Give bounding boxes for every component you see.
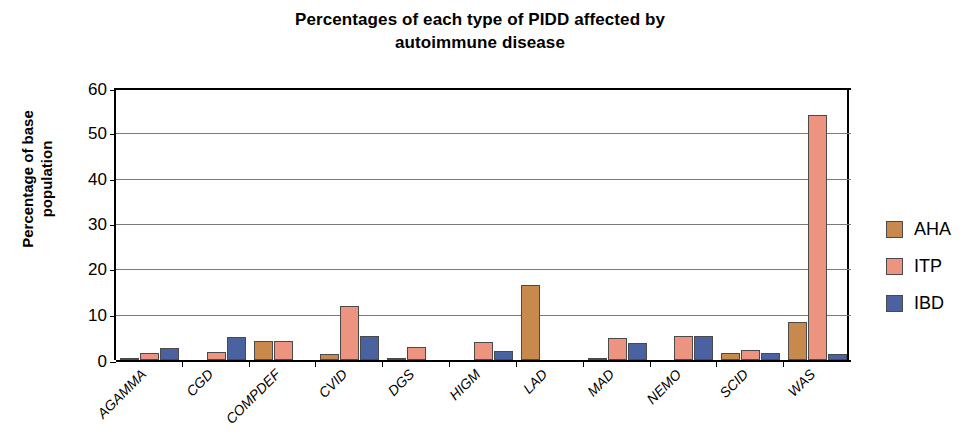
- bar-ibd-scid: [761, 353, 780, 360]
- bar-ibd-agamma: [160, 348, 179, 360]
- bar-itp-nemo: [674, 336, 693, 360]
- bar-aha-was: [788, 322, 807, 360]
- y-tick-label-20: 20: [67, 260, 107, 280]
- plot-area: 0102030405060: [114, 88, 849, 360]
- y-axis-title-line-2: population: [37, 79, 56, 279]
- bar-ibd-higm: [494, 351, 513, 360]
- bar-itp-scid: [741, 350, 760, 360]
- bar-itp-cvid: [340, 306, 359, 360]
- legend-item-aha[interactable]: AHA: [886, 211, 970, 248]
- bar-itp-dgs: [407, 347, 426, 360]
- x-label-cell: HIGM: [448, 362, 515, 441]
- bar-itp-mad: [608, 338, 627, 360]
- x-axis-label-nemo: NEMO: [643, 366, 684, 407]
- chart-title-line-1: Percentages of each type of PIDD affecte…: [295, 10, 665, 29]
- bar-aha-cvid: [320, 354, 339, 360]
- bar-ibd-nemo: [694, 336, 713, 360]
- x-label-cell: WAS: [782, 362, 849, 441]
- bar-itp-higm: [474, 342, 493, 360]
- bar-ibd-was: [828, 354, 847, 360]
- legend-label-ibd: IBD: [914, 293, 944, 314]
- x-label-cell: NEMO: [649, 362, 716, 441]
- y-axis-title-line-1: Percentage of base: [18, 79, 37, 279]
- y-tick-label-40: 40: [67, 170, 107, 190]
- legend-swatch-itp: [886, 258, 903, 275]
- x-axis-label-cvid: CVID: [315, 366, 350, 401]
- bar-aha-lad: [521, 285, 540, 360]
- bar-group-cgd: [183, 88, 250, 360]
- x-axis-label-mad: MAD: [584, 366, 617, 399]
- bar-group-cvid: [316, 88, 383, 360]
- bar-group-agamma: [116, 88, 183, 360]
- bars-layer: [116, 88, 851, 360]
- x-axis-label-agamma: AGAMMA: [94, 366, 149, 421]
- bar-aha-compdef: [254, 341, 273, 360]
- bar-aha-dgs: [387, 358, 406, 361]
- x-axis-label-dgs: DGS: [384, 366, 417, 399]
- y-tick-label-30: 30: [67, 215, 107, 235]
- x-label-cell: SCID: [715, 362, 782, 441]
- legend-swatch-aha: [886, 221, 903, 238]
- x-label-cell: CVID: [314, 362, 381, 441]
- bar-group-compdef: [250, 88, 317, 360]
- bar-itp-was: [808, 115, 827, 360]
- bar-ibd-mad: [628, 343, 647, 360]
- chart-title: Percentages of each type of PIDD affecte…: [150, 8, 810, 54]
- bar-itp-agamma: [140, 353, 159, 360]
- legend: AHAITPIBD: [886, 211, 970, 322]
- bar-group-higm: [450, 88, 517, 360]
- x-label-cell: MAD: [582, 362, 649, 441]
- x-label-cell: LAD: [515, 362, 582, 441]
- y-axis-title: Percentage of base population: [18, 79, 56, 279]
- legend-item-ibd[interactable]: IBD: [886, 285, 970, 322]
- legend-label-itp: ITP: [914, 256, 942, 277]
- y-tick-label-60: 60: [67, 80, 107, 100]
- bar-group-nemo: [651, 88, 718, 360]
- legend-item-itp[interactable]: ITP: [886, 248, 970, 285]
- y-tick-label-10: 10: [67, 306, 107, 326]
- bar-aha-mad: [588, 358, 607, 361]
- x-axis-label-lad: LAD: [520, 366, 551, 397]
- x-axis-label-cgd: CGD: [183, 366, 216, 399]
- x-label-cell: COMPDEF: [248, 362, 315, 441]
- bar-itp-cgd: [207, 352, 226, 360]
- y-tick-label-50: 50: [67, 124, 107, 144]
- y-tick-label-0: 0: [67, 352, 107, 372]
- x-axis-label-scid: SCID: [716, 366, 751, 401]
- x-axis-labels: AGAMMACGDCOMPDEFCVIDDGSHIGMLADMADNEMOSCI…: [114, 362, 849, 441]
- bar-group-dgs: [383, 88, 450, 360]
- bar-ibd-cvid: [360, 336, 379, 360]
- bar-aha-agamma: [120, 358, 139, 361]
- x-axis-label-higm: HIGM: [447, 366, 484, 403]
- bar-group-lad: [517, 88, 584, 360]
- bar-group-scid: [717, 88, 784, 360]
- plot-area-wrapper: 0102030405060: [114, 88, 849, 360]
- bar-group-mad: [584, 88, 651, 360]
- bar-ibd-cgd: [227, 337, 246, 360]
- x-label-cell: AGAMMA: [114, 362, 181, 441]
- chart-page: Percentages of each type of PIDD affecte…: [0, 0, 970, 441]
- legend-swatch-ibd: [886, 295, 903, 312]
- x-axis-label-was: WAS: [784, 366, 818, 400]
- x-label-cell: DGS: [381, 362, 448, 441]
- bar-aha-scid: [721, 353, 740, 360]
- bar-group-was: [784, 88, 851, 360]
- chart-title-line-2: autoimmune disease: [150, 31, 810, 54]
- bar-itp-compdef: [274, 341, 293, 360]
- legend-label-aha: AHA: [914, 219, 951, 240]
